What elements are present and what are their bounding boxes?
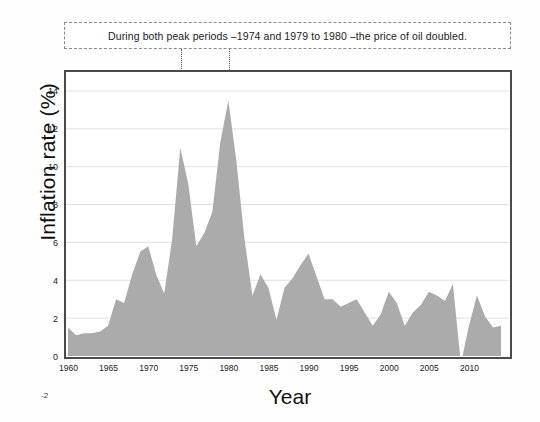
y-axis-tick-label: 0 bbox=[32, 352, 58, 362]
y-axis-tick-label: 14 bbox=[32, 86, 58, 96]
inflation-area-series bbox=[68, 100, 501, 356]
area-chart-svg bbox=[66, 72, 509, 356]
x-axis-tick-label: 1995 bbox=[329, 363, 369, 373]
x-axis-tick-label: 2000 bbox=[369, 363, 409, 373]
x-axis-tick-label: 2005 bbox=[409, 363, 449, 373]
x-axis-tick-label: 1965 bbox=[89, 363, 129, 373]
y-axis-extra-tick-label: -2 bbox=[41, 391, 48, 400]
x-axis-tick-label: 1960 bbox=[49, 363, 89, 373]
x-axis-tick-label: 1975 bbox=[169, 363, 209, 373]
x-axis-tick-label: 2010 bbox=[449, 363, 489, 373]
y-axis-tick-label: 10 bbox=[32, 162, 58, 172]
chart-figure: During both peak periods –1974 and 1979 … bbox=[0, 0, 540, 422]
y-axis-tick-label: 12 bbox=[32, 124, 58, 134]
y-axis-tick-label: 6 bbox=[32, 238, 58, 248]
plot-area bbox=[64, 70, 512, 359]
annotation-callout-box: During both peak periods –1974 and 1979 … bbox=[64, 22, 511, 49]
y-axis-tick-label: 2 bbox=[32, 314, 58, 324]
x-axis-tick-label: 1990 bbox=[289, 363, 329, 373]
x-axis-tick-label: 1970 bbox=[129, 363, 169, 373]
y-axis-tick-label: 4 bbox=[32, 276, 58, 286]
x-axis-title: Year bbox=[230, 385, 350, 409]
x-axis-tick-label: 1985 bbox=[249, 363, 289, 373]
annotation-callout-text: During both peak periods –1974 and 1979 … bbox=[65, 30, 510, 42]
x-axis-tick-label: 1980 bbox=[209, 363, 249, 373]
y-axis-tick-label: 8 bbox=[32, 200, 58, 210]
